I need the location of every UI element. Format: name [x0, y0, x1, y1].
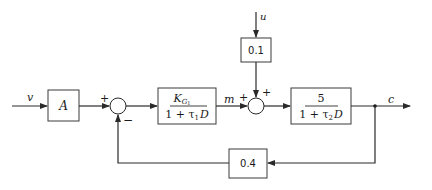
- sum1-minus-sign: −: [123, 113, 133, 127]
- sum1-plus-sign: +: [100, 92, 109, 105]
- summing-junction-2: [248, 98, 264, 114]
- block-diagram: v A + − KG1 1 + τ1D m + u 0.1 + 5 1 + τ2…: [0, 0, 432, 190]
- summing-junction-1: [110, 98, 126, 114]
- signal-u-label: u: [260, 11, 266, 22]
- gain-a-label: A: [58, 99, 68, 113]
- sum2-plus-top-sign: +: [262, 86, 271, 99]
- sum2-plus-left-sign: +: [239, 91, 248, 104]
- disturbance-gain-label: 0.1: [248, 45, 264, 56]
- signal-c-label: c: [388, 93, 394, 106]
- feedback-gain-label: 0.4: [240, 158, 256, 169]
- signal-v-label: v: [27, 91, 34, 104]
- controller-denominator: 1 + τ1D: [165, 108, 209, 122]
- plant-numerator: 5: [318, 92, 325, 105]
- signal-m-label: m: [224, 93, 234, 106]
- plant-denominator: 1 + τ2D: [299, 108, 343, 122]
